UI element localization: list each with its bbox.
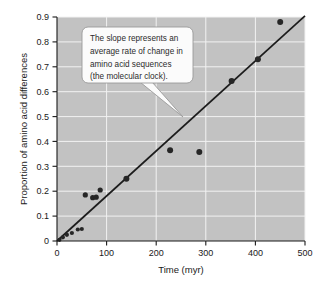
y-tick-label: 0.8 — [36, 37, 49, 47]
data-point — [70, 231, 74, 235]
data-point — [80, 227, 84, 231]
y-tick-label: 0.3 — [36, 162, 49, 172]
annotation-line-1: The slope represents an — [90, 34, 179, 43]
x-tick-label: 300 — [198, 248, 213, 258]
x-tick-label: 200 — [149, 248, 164, 258]
data-point — [255, 56, 261, 62]
scatter-chart: The slope represents an average rate of … — [0, 0, 317, 288]
y-tick-label: 0.7 — [36, 62, 49, 72]
annotation-line-3: amino acid sequences — [90, 60, 171, 69]
y-tick-label: 0 — [44, 236, 49, 246]
data-point — [94, 195, 99, 200]
y-tick-label: 0.5 — [36, 112, 49, 122]
x-tick-label: 100 — [99, 248, 114, 258]
y-tick-label: 0.1 — [36, 211, 49, 221]
annotation-line-2: average rate of change in — [90, 47, 183, 56]
y-tick-label: 0.4 — [36, 137, 49, 147]
y-axis-title: Proportion of amino acid differences — [18, 53, 29, 205]
data-point — [229, 78, 235, 84]
data-point — [167, 147, 173, 153]
x-tick-label: 0 — [54, 248, 59, 258]
y-tick-label: 0.2 — [36, 186, 49, 196]
x-tick-label: 500 — [297, 248, 312, 258]
data-point — [123, 176, 129, 182]
x-axis-title: Time (myr) — [158, 264, 204, 275]
y-tick-label: 0.9 — [36, 12, 49, 22]
data-point — [61, 235, 65, 239]
data-point — [83, 192, 88, 197]
y-tick-label: 0.6 — [36, 87, 49, 97]
data-point — [98, 187, 103, 192]
x-tick-label: 400 — [248, 248, 263, 258]
data-point — [277, 19, 283, 25]
data-point — [76, 227, 80, 231]
data-point — [65, 233, 69, 237]
annotation-line-4: (the molecular clock). — [90, 72, 168, 81]
data-point — [196, 149, 202, 155]
